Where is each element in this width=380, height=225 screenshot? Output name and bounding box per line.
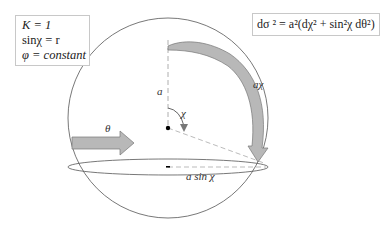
slant-dashed-line	[168, 128, 264, 163]
curvature-value: K = 1	[22, 18, 89, 33]
ring-center-mark	[166, 166, 170, 168]
label-chi: χ	[181, 107, 186, 119]
label-a-sin-chi: a sin χ	[186, 170, 215, 182]
sin-chi-relation: sinχ = r	[22, 33, 89, 48]
properties-box: K = 1 sinχ = r φ = constant	[15, 15, 90, 66]
center-dot	[166, 126, 170, 130]
label-a-chi: aχ	[253, 78, 263, 90]
arc-arrow-a-chi	[168, 42, 268, 162]
metric-equation: dσ ² = a²(dχ² + sin²χ dθ²)	[257, 17, 375, 31]
chi-angle-arrowhead-icon	[180, 124, 188, 132]
phi-constant: φ = constant	[22, 48, 89, 63]
label-theta: θ	[105, 122, 110, 134]
theta-arrow	[72, 131, 134, 155]
label-radius-a: a	[157, 85, 163, 97]
metric-equation-box: dσ ² = a²(dχ² + sin²χ dθ²)	[252, 13, 380, 36]
